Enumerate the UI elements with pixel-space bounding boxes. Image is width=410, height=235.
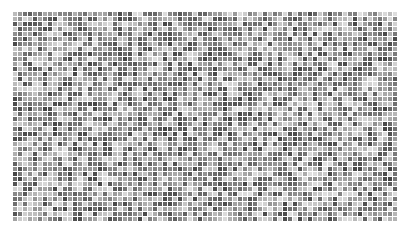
mosaic-cell: [103, 182, 107, 186]
mosaic-cell: [228, 97, 232, 101]
mosaic-cell: [278, 197, 282, 201]
mosaic-cell: [383, 167, 387, 171]
mosaic-cell: [143, 207, 147, 211]
mosaic-cell: [73, 212, 77, 216]
mosaic-cell: [168, 122, 172, 126]
mosaic-cell: [218, 117, 222, 121]
mosaic-cell: [368, 32, 372, 36]
mosaic-cell: [378, 112, 382, 116]
mosaic-cell: [348, 22, 352, 26]
mosaic-cell: [183, 152, 187, 156]
mosaic-cell: [223, 97, 227, 101]
mosaic-cell: [63, 102, 67, 106]
mosaic-cell: [48, 202, 52, 206]
mosaic-cell: [173, 82, 177, 86]
mosaic-cell: [263, 172, 267, 176]
mosaic-cell: [153, 107, 157, 111]
mosaic-cell: [268, 42, 272, 46]
mosaic-cell: [358, 112, 362, 116]
mosaic-cell: [148, 127, 152, 131]
mosaic-cell: [143, 187, 147, 191]
mosaic-cell: [193, 142, 197, 146]
mosaic-cell: [43, 102, 47, 106]
mosaic-cell: [323, 72, 327, 76]
mosaic-cell: [333, 192, 337, 196]
mosaic-cell: [278, 132, 282, 136]
mosaic-cell: [248, 22, 252, 26]
mosaic-cell: [348, 137, 352, 141]
mosaic-cell: [358, 157, 362, 161]
mosaic-cell: [278, 202, 282, 206]
mosaic-cell: [163, 37, 167, 41]
mosaic-cell: [128, 87, 132, 91]
mosaic-cell: [363, 57, 367, 61]
mosaic-cell: [18, 57, 22, 61]
mosaic-cell: [268, 22, 272, 26]
mosaic-cell: [298, 212, 302, 216]
mosaic-cell: [258, 147, 262, 151]
mosaic-cell: [138, 167, 142, 171]
mosaic-cell: [223, 157, 227, 161]
mosaic-cell: [393, 152, 397, 156]
mosaic-cell: [108, 142, 112, 146]
mosaic-cell: [238, 12, 242, 16]
mosaic-cell: [233, 107, 237, 111]
mosaic-cell: [128, 107, 132, 111]
mosaic-cell: [243, 107, 247, 111]
mosaic-cell: [118, 27, 122, 31]
mosaic-cell: [348, 107, 352, 111]
mosaic-cell: [238, 217, 242, 221]
mosaic-cell: [203, 67, 207, 71]
mosaic-cell: [338, 42, 342, 46]
mosaic-cell: [303, 107, 307, 111]
mosaic-cell: [13, 217, 17, 221]
mosaic-cell: [33, 177, 37, 181]
mosaic-cell: [143, 197, 147, 201]
mosaic-cell: [133, 127, 137, 131]
mosaic-cell: [128, 32, 132, 36]
mosaic-cell: [243, 32, 247, 36]
mosaic-cell: [193, 122, 197, 126]
mosaic-cell: [343, 57, 347, 61]
mosaic-cell: [318, 52, 322, 56]
mosaic-cell: [378, 72, 382, 76]
mosaic-cell: [208, 132, 212, 136]
mosaic-cell: [303, 212, 307, 216]
mosaic-cell: [13, 117, 17, 121]
mosaic-cell: [163, 112, 167, 116]
mosaic-cell: [173, 157, 177, 161]
mosaic-cell: [168, 187, 172, 191]
mosaic-cell: [388, 62, 392, 66]
mosaic-cell: [263, 117, 267, 121]
mosaic-cell: [258, 197, 262, 201]
mosaic-cell: [103, 197, 107, 201]
mosaic-cell: [18, 127, 22, 131]
mosaic-cell: [83, 97, 87, 101]
mosaic-cell: [303, 172, 307, 176]
mosaic-cell: [293, 122, 297, 126]
mosaic-cell: [93, 147, 97, 151]
mosaic-cell: [23, 57, 27, 61]
mosaic-cell: [43, 57, 47, 61]
mosaic-cell: [108, 212, 112, 216]
mosaic-cell: [178, 207, 182, 211]
mosaic-cell: [263, 202, 267, 206]
mosaic-cell: [233, 147, 237, 151]
mosaic-cell: [118, 47, 122, 51]
mosaic-cell: [128, 52, 132, 56]
mosaic-cell: [163, 12, 167, 16]
mosaic-cell: [393, 92, 397, 96]
mosaic-cell: [193, 22, 197, 26]
mosaic-cell: [113, 127, 117, 131]
mosaic-cell: [223, 32, 227, 36]
mosaic-cell: [273, 132, 277, 136]
mosaic-cell: [228, 207, 232, 211]
mosaic-cell: [213, 22, 217, 26]
mosaic-cell: [178, 42, 182, 46]
mosaic-cell: [23, 217, 27, 221]
mosaic-cell: [238, 17, 242, 21]
mosaic-cell: [98, 32, 102, 36]
mosaic-cell: [18, 172, 22, 176]
mosaic-cell: [233, 117, 237, 121]
mosaic-cell: [338, 142, 342, 146]
